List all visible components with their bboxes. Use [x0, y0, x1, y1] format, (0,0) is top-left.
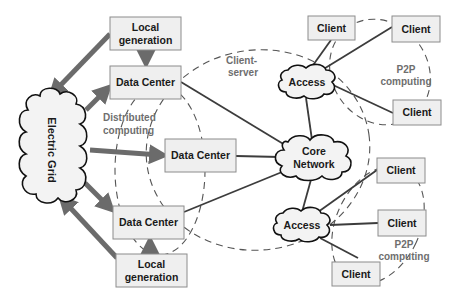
data-center-bottom-label: Data Center [119, 216, 178, 228]
local-generation-top-line1: Local [132, 21, 160, 33]
client-4-label: Client [386, 164, 416, 176]
local-generation-bottom-line2: generation [125, 271, 179, 283]
client-3-label: Client [402, 106, 432, 118]
local-generation-top: Local generation [110, 17, 181, 50]
client-6: Client [332, 262, 380, 286]
local-generation-bottom: Local generation [116, 254, 187, 287]
data-center-middle: Data Center [165, 139, 236, 172]
electric-grid-cloud: Electric Grid [19, 88, 87, 203]
p2p-top-line2: computing [380, 76, 431, 87]
client-5: Client [378, 210, 426, 236]
distributed-computing-diagram: Electric Grid Local generation Data Cent… [0, 0, 455, 301]
distributed-computing-line2: computing [103, 125, 154, 136]
client-4: Client [377, 158, 425, 183]
client-1: Client [308, 16, 355, 40]
client-6-label: Client [341, 268, 371, 280]
p2p-bottom-line1: P2P [395, 239, 414, 250]
data-center-middle-label: Data Center [171, 149, 230, 161]
electric-grid-label: Electric Grid [46, 117, 58, 182]
core-network-cloud: Core Network [275, 135, 351, 181]
data-center-top: Data Center [110, 66, 181, 99]
client-1-label: Client [317, 22, 347, 34]
local-generation-top-line2: generation [119, 34, 173, 46]
client-5-label: Client [387, 217, 417, 229]
distributed-computing-line1: Distributed [103, 112, 156, 123]
client-2-label: Client [401, 23, 431, 35]
core-network-line1: Core [302, 145, 326, 157]
access-cloud-bottom: Access [274, 207, 330, 241]
client-server-line1: Client- [226, 55, 257, 66]
data-center-bottom: Data Center [113, 206, 184, 239]
client-3: Client [393, 100, 441, 125]
p2p-top-line1: P2P [397, 64, 416, 75]
data-center-top-label: Data Center [116, 76, 175, 88]
client-server-line2: server [228, 67, 258, 78]
client-2: Client [392, 16, 440, 42]
core-network-line2: Network [293, 158, 335, 170]
access-cloud-top: Access [279, 64, 335, 98]
local-generation-bottom-line1: Local [138, 258, 166, 270]
p2p-bottom-line2: computing [378, 251, 429, 262]
access-bottom-label: Access [284, 219, 321, 231]
access-top-label: Access [289, 76, 326, 88]
